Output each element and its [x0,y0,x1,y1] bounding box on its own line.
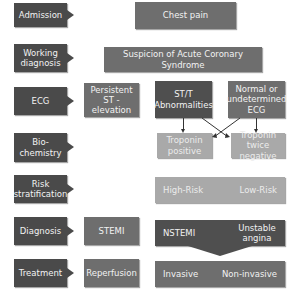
node-reperfusion: Reperfusion [84,259,139,287]
node-label: Reperfusion [86,268,137,278]
invasive-label: Invasive [163,269,198,279]
non-invasive-label: Non-invasive [222,269,277,279]
node-invasive: Invasive Non-invasive [155,261,285,287]
down-arrow-icon [0,0,300,305]
